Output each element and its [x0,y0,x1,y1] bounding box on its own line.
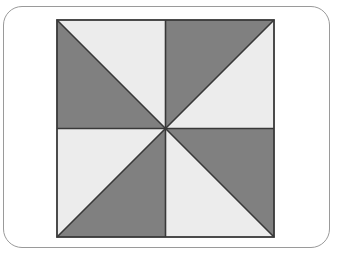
figure-canvas: A square divided into four equal quadran… [0,0,349,259]
pinwheel-figure [56,19,275,238]
pinwheel-svg [56,19,275,238]
